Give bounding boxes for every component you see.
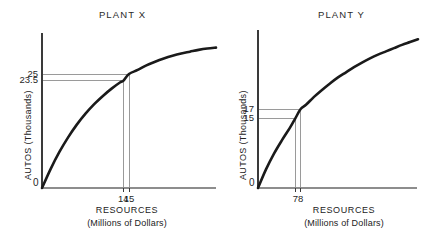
plot-area-plant-x: [0, 0, 221, 240]
y-tick-label-17: 17: [224, 103, 254, 114]
production-curves-figure: PLANT X AUTOS (Thousands) RESOURCES (Mil…: [0, 0, 442, 240]
x-tick-label-8: 8: [291, 193, 311, 204]
chart-panel-plant-x: PLANT X AUTOS (Thousands) RESOURCES (Mil…: [0, 0, 221, 240]
x-tick-label-15: 15: [119, 193, 139, 204]
origin-label: 0: [249, 177, 255, 188]
origin-label: 0: [33, 177, 39, 188]
chart-panel-plant-y: PLANT Y AUTOS (Thousands) RESOURCES (Mil…: [221, 0, 442, 240]
y-tick-label-25: 25: [8, 68, 38, 79]
plot-area-plant-y: [221, 0, 442, 240]
